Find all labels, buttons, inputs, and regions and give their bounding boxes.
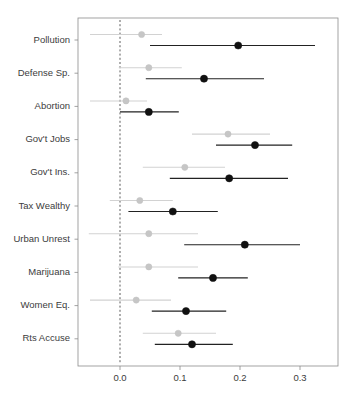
estimate-dot-light (175, 330, 181, 336)
estimate-dot-light (137, 197, 143, 203)
y-axis-tick-label: Gov't Ins. (30, 166, 70, 177)
estimate-dot-light (133, 297, 139, 303)
y-axis-tick-label: Tax Wealthy (18, 200, 70, 211)
y-axis-tick-label: Pollution (34, 34, 70, 45)
y-axis-tick-label: Gov't Jobs (25, 133, 70, 144)
chart-canvas: PollutionDefense Sp.AbortionGov't JobsGo… (0, 0, 356, 405)
y-axis-tick-label: Abortion (35, 100, 70, 111)
x-axis-tick-label: 0.3 (293, 372, 306, 383)
estimate-dot-light (139, 31, 145, 37)
x-axis-tick-label: 0.1 (173, 372, 186, 383)
estimate-dot-dark (235, 42, 242, 49)
estimate-dot-light (146, 65, 152, 71)
estimate-dot-dark (188, 341, 195, 348)
estimate-dot-dark (145, 108, 152, 115)
y-axis-tick-label: Defense Sp. (18, 67, 70, 78)
x-axis-tick-label: 0.2 (233, 372, 246, 383)
y-axis-tick-label: Urban Unrest (14, 233, 71, 244)
x-axis-tick-label: 0.0 (113, 372, 126, 383)
estimate-dot-light (146, 264, 152, 270)
estimate-dot-dark (226, 175, 233, 182)
y-axis-tick-label: Women Eq. (21, 299, 70, 310)
estimate-dot-light (182, 164, 188, 170)
estimate-dot-dark (182, 308, 189, 315)
estimate-dot-dark (209, 274, 216, 281)
estimate-dot-light (225, 131, 231, 137)
estimate-dot-dark (200, 75, 207, 82)
estimate-dot-dark (251, 142, 258, 149)
estimate-dot-dark (169, 208, 176, 215)
estimate-dot-light (123, 98, 129, 104)
estimate-dot-light (146, 231, 152, 237)
y-axis-tick-label: Marijuana (28, 266, 70, 277)
coefficient-plot-figure: PollutionDefense Sp.AbortionGov't JobsGo… (0, 0, 356, 405)
y-axis-tick-label: Rts Accuse (22, 332, 70, 343)
estimate-dot-dark (241, 241, 248, 248)
